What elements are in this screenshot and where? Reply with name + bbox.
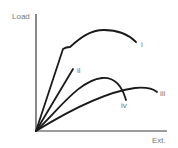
curve-iii-label: iii: [160, 89, 166, 98]
load-extension-chart: Load Ext. i ii iii iv: [0, 0, 178, 148]
y-axis-label: Load: [12, 12, 30, 21]
curve-i-label: i: [141, 40, 143, 49]
curve-iii: [36, 88, 157, 131]
curve-iv-label: iv: [121, 101, 127, 110]
curve-ii-label: ii: [77, 66, 81, 75]
x-axis-label: Ext.: [152, 136, 166, 145]
